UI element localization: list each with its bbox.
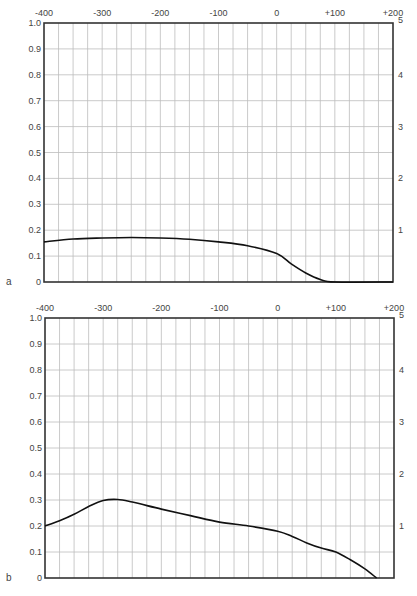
y2-tick-label: 1 (399, 521, 404, 531)
y-tick-label: 0.6 (29, 417, 42, 427)
panel-label: a (6, 276, 12, 287)
y-tick-label: 0.1 (29, 547, 42, 557)
y2-tick-label: 4 (398, 70, 403, 80)
y-tick-label: 0.2 (29, 521, 42, 531)
x-tick-label: 0 (274, 8, 279, 18)
y-tick-label: 0.4 (28, 173, 41, 183)
panel-label: b (6, 572, 12, 583)
x-tick-label: -400 (35, 8, 53, 18)
x-tick-label: +100 (326, 303, 346, 313)
x-tick-label: +100 (325, 8, 345, 18)
y-tick-label: 0 (37, 573, 42, 583)
y2-tick-label: 3 (399, 417, 404, 427)
y-tick-label: 0.3 (29, 495, 42, 505)
x-tick-label: -300 (94, 303, 112, 313)
y2-tick-label: 2 (399, 469, 404, 479)
y-tick-label: 0.2 (28, 225, 41, 235)
y-tick-label: 0.9 (28, 44, 41, 54)
x-tick-label: -200 (152, 303, 170, 313)
x-tick-label: -100 (210, 303, 228, 313)
y-tick-label: 0.1 (28, 251, 41, 261)
y2-tick-label: 5 (398, 15, 403, 25)
y-tick-label: 1.0 (28, 18, 41, 28)
chart-figure: -400-300-200-1000+100+20000.10.20.30.40.… (0, 0, 417, 596)
y-tick-label: 0.7 (28, 96, 41, 106)
y2-tick-label: 4 (399, 365, 404, 375)
x-tick-label: -200 (151, 8, 169, 18)
y-tick-label: 0.7 (29, 391, 42, 401)
y2-tick-label: 1 (398, 225, 403, 235)
x-tick-label: -300 (93, 8, 111, 18)
x-tick-label: -100 (209, 8, 227, 18)
y-tick-label: 0.3 (28, 199, 41, 209)
y2-tick-label: 2 (398, 173, 403, 183)
y-tick-label: 0.5 (29, 443, 42, 453)
y-tick-label: 0.8 (28, 70, 41, 80)
y-tick-label: 0.5 (28, 148, 41, 158)
y-tick-label: 0.6 (28, 122, 41, 132)
chart-panel-a: -400-300-200-1000+100+20000.10.20.30.40.… (6, 8, 403, 287)
y-tick-label: 0.8 (29, 365, 42, 375)
chart-panel-b: -400-300-200-1000+100+20000.10.20.30.40.… (6, 303, 404, 583)
series-line-curve-b (45, 499, 377, 578)
y-tick-label: 0.9 (29, 339, 42, 349)
y-tick-label: 0.4 (29, 469, 42, 479)
x-tick-label: -400 (36, 303, 54, 313)
x-tick-label: 0 (275, 303, 280, 313)
y2-tick-label: 3 (398, 122, 403, 132)
y-tick-label: 0 (36, 277, 41, 287)
y2-tick-label: 5 (399, 310, 404, 320)
y-tick-label: 1.0 (29, 313, 42, 323)
